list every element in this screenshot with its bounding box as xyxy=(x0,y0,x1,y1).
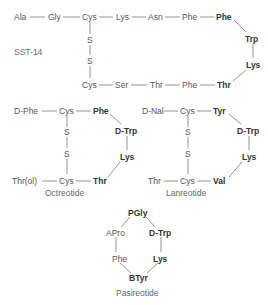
sulfur: S xyxy=(87,35,93,45)
sulfur: S xyxy=(185,127,191,137)
residue-bold: Thr xyxy=(217,80,231,90)
residue-bold: Phe xyxy=(93,106,109,116)
residue: Cys xyxy=(59,106,74,116)
residue: Lys xyxy=(116,12,129,22)
residue: Thr(ol) xyxy=(12,176,37,186)
lanreotide-structure: D-Nal Cys Tyr D-Trp Lys Val Cys Thr S S … xyxy=(142,106,259,198)
pasireotide-structure: PGly D-Trp Lys BTyr Phe APro Pasireotide xyxy=(106,208,171,298)
molecule-label: Pasireotide xyxy=(116,288,159,298)
residue: Thr xyxy=(150,80,163,90)
residue-bold: Phe xyxy=(216,12,232,22)
residue: Cys xyxy=(180,106,195,116)
residue-bold: Tyr xyxy=(213,106,226,116)
residue: Phe xyxy=(182,12,197,22)
bond xyxy=(147,263,158,273)
residue: Cys xyxy=(82,12,97,22)
residue: D-Nal xyxy=(142,106,164,116)
residue-bold: Thr xyxy=(93,176,107,186)
residue: Cys xyxy=(180,176,195,186)
sst14-structure: Ala Gly Cys Lys Asn Phe Phe Trp Lys Thr … xyxy=(14,12,261,90)
residue-bold: Lys xyxy=(246,60,261,70)
residue: Cys xyxy=(82,80,97,90)
bond xyxy=(108,162,120,177)
molecule-label: Octreotide xyxy=(45,188,84,198)
residue-bold: Val xyxy=(213,176,225,186)
bond xyxy=(229,114,241,124)
molecule-label: SST-14 xyxy=(14,47,43,57)
residue: Cys xyxy=(59,176,74,186)
sulfur: S xyxy=(87,56,93,66)
residue: Phe xyxy=(182,80,197,90)
residue-bold: Lys xyxy=(153,254,168,264)
peptide-diagram: Ala Gly Cys Lys Asn Phe Phe Trp Lys Thr … xyxy=(0,0,268,305)
residue-bold: D-Trp xyxy=(115,126,137,136)
residue: Thr xyxy=(148,176,161,186)
residue-bold: Lys xyxy=(242,152,257,162)
residue-bold: D-Trp xyxy=(237,126,259,136)
residue: Phe xyxy=(112,254,127,264)
residue: Ser xyxy=(115,80,128,90)
bond xyxy=(234,20,246,32)
residue: APro xyxy=(106,228,125,238)
bond xyxy=(110,114,121,124)
bond xyxy=(146,217,155,227)
bond xyxy=(121,217,130,227)
residue: D-Phe xyxy=(14,106,38,116)
residue-bold: D-Trp xyxy=(149,228,171,238)
residue: Asn xyxy=(148,12,163,22)
bond xyxy=(229,162,242,177)
bond xyxy=(120,263,131,273)
sulfur: S xyxy=(64,149,70,159)
residue-bold: PGly xyxy=(128,208,148,218)
bond xyxy=(233,70,246,81)
sulfur: S xyxy=(185,149,191,159)
residue: Ala xyxy=(14,12,27,22)
residue-bold: Lys xyxy=(120,152,135,162)
residue-bold: Trp xyxy=(245,34,258,44)
molecule-label: Lanreotide xyxy=(166,188,206,198)
octreotide-structure: D-Phe Cys Phe D-Trp Lys Thr Cys Thr(ol) … xyxy=(12,106,137,198)
residue: Gly xyxy=(48,12,62,22)
residue-bold: BTyr xyxy=(129,273,148,283)
sulfur: S xyxy=(64,127,70,137)
